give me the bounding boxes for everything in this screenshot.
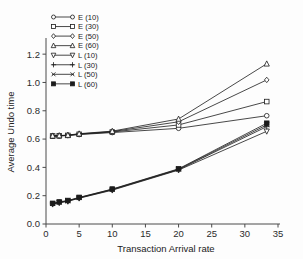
series-e-30 xyxy=(50,99,269,138)
data-point xyxy=(50,201,55,206)
legend-item-l-10: L (10) xyxy=(51,51,98,60)
y-tick-label: 1.0 xyxy=(27,77,40,88)
y-tick-label: 1.2 xyxy=(27,49,40,60)
data-point xyxy=(52,15,56,19)
series-line xyxy=(53,102,267,136)
data-point xyxy=(70,62,75,67)
y-axis: 0.00.20.40.60.81.01.2 xyxy=(27,38,46,229)
series-e-10 xyxy=(50,113,269,138)
series-line xyxy=(53,123,267,203)
y-axis-title: Average Undo time xyxy=(5,91,16,172)
data-point xyxy=(264,77,269,82)
data-point xyxy=(176,167,181,172)
x-tick-label: 30 xyxy=(240,228,251,239)
legend-label: E (50) xyxy=(78,32,99,41)
data-point xyxy=(264,113,269,118)
x-tick-label: 35 xyxy=(273,228,284,239)
data-point xyxy=(71,82,75,86)
data-point xyxy=(176,116,181,121)
x-axis-title: Transaction Arrival rate xyxy=(117,243,214,254)
data-point xyxy=(264,99,269,104)
data-point xyxy=(77,195,82,200)
legend-label: L (60) xyxy=(78,80,98,89)
legend-label: E (30) xyxy=(78,22,99,31)
data-point xyxy=(71,25,75,29)
data-point xyxy=(264,129,269,134)
line-chart: 0.00.20.40.60.81.01.2 05101520253035 E (… xyxy=(0,0,303,259)
legend-item-e-10: E (10) xyxy=(52,13,100,22)
legend-item-e-30: E (30) xyxy=(52,22,100,31)
x-tick-label: 10 xyxy=(107,228,118,239)
x-tick-label: 5 xyxy=(76,228,81,239)
data-point xyxy=(110,187,115,192)
series-l-50 xyxy=(50,123,269,206)
data-point xyxy=(71,34,75,39)
data-point xyxy=(71,15,75,19)
x-tick-label: 20 xyxy=(173,228,184,239)
series-line xyxy=(53,127,267,204)
data-point xyxy=(51,62,56,67)
legend-item-l-50: L (50) xyxy=(52,70,99,79)
series-line xyxy=(53,125,267,204)
data-point xyxy=(52,34,56,39)
data-point xyxy=(264,61,269,66)
legend-item-e-60: E (60) xyxy=(51,41,99,50)
legend-label: L (30) xyxy=(78,61,98,70)
legend-label: E (60) xyxy=(78,41,99,50)
legend-label: L (50) xyxy=(78,70,98,79)
x-tick-label: 25 xyxy=(206,228,217,239)
chart-legend: E (10)E (30)E (50)E (60)L (10)L (30)L (5… xyxy=(51,13,99,89)
legend-item-e-50: E (50) xyxy=(52,32,100,41)
y-tick-label: 0.2 xyxy=(27,190,40,201)
data-point xyxy=(57,200,62,205)
x-axis: 05101520253035 xyxy=(43,224,283,239)
chart-figure: 0.00.20.40.60.81.01.2 05101520253035 E (… xyxy=(0,0,303,259)
legend-label: E (10) xyxy=(78,13,99,22)
y-tick-label: 0.6 xyxy=(27,133,40,144)
legend-item-l-60: L (60) xyxy=(52,80,99,89)
data-point xyxy=(264,121,269,126)
series-l-10 xyxy=(50,129,269,207)
legend-label: L (10) xyxy=(78,51,98,60)
y-tick-label: 0.8 xyxy=(27,105,40,116)
x-tick-label: 15 xyxy=(140,228,151,239)
y-tick-label: 0.4 xyxy=(27,162,40,173)
legend-item-l-30: L (30) xyxy=(51,61,98,70)
data-point xyxy=(52,82,56,86)
data-point xyxy=(52,25,56,29)
x-tick-label: 0 xyxy=(43,228,48,239)
y-tick-label: 0.0 xyxy=(27,218,40,229)
data-point xyxy=(66,198,71,203)
series-l-30 xyxy=(50,124,270,207)
